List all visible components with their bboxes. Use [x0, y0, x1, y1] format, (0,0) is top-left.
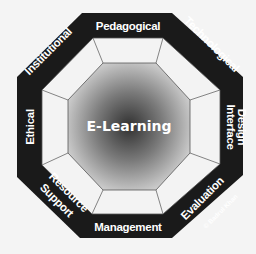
e-learning-framework-diagram: E-Learning Pedagogical Technological Int…: [0, 0, 256, 254]
center-label: E-Learning: [87, 118, 172, 134]
label-ethical: Ethical: [24, 109, 36, 145]
label-management: Management: [94, 221, 162, 233]
label-interface: Interface: [225, 104, 237, 149]
label-design: Design: [236, 109, 248, 146]
label-pedagogical: Pedagogical: [96, 20, 161, 32]
